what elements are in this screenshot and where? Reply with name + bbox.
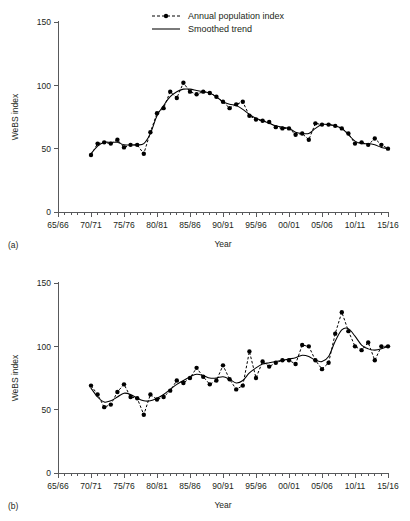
data-point-marker [267, 364, 271, 368]
data-point-marker [227, 106, 231, 110]
data-point-marker [155, 397, 159, 401]
x-tick-label: 75/76 [113, 481, 135, 491]
legend-label-smoothed-trend: Smoothed trend [188, 24, 252, 34]
data-point-marker [221, 100, 225, 104]
data-point-marker [280, 358, 284, 362]
data-point-marker [122, 145, 126, 149]
data-point-marker [102, 405, 106, 409]
data-point-marker [353, 141, 357, 145]
data-point-marker [274, 125, 278, 129]
data-point-marker [254, 117, 258, 121]
data-point-marker [122, 382, 126, 386]
data-point-marker [148, 392, 152, 396]
data-point-marker [161, 395, 165, 399]
data-point-marker [333, 124, 337, 128]
y-tick-label: 100 [37, 342, 51, 352]
data-point-marker [181, 381, 185, 385]
data-point-marker [142, 152, 146, 156]
data-point-marker [227, 377, 231, 381]
data-point-marker [109, 141, 113, 145]
data-point-marker [161, 106, 165, 110]
data-point-marker [359, 348, 363, 352]
panel-letter: (a) [8, 240, 19, 250]
y-tick-label: 50 [42, 144, 52, 154]
x-tick-label: 85/86 [179, 481, 201, 491]
data-point-marker [320, 367, 324, 371]
data-point-marker [168, 89, 172, 93]
data-point-marker [300, 343, 304, 347]
data-point-marker [115, 390, 119, 394]
data-point-marker [128, 395, 132, 399]
data-point-marker [135, 143, 139, 147]
data-point-marker [128, 143, 132, 147]
data-point-marker [287, 126, 291, 130]
data-point-marker [201, 375, 205, 379]
data-point-marker [234, 387, 238, 391]
data-point-marker [89, 153, 93, 157]
x-tick-label: 70/71 [80, 220, 102, 230]
x-axis-title: Year [214, 239, 231, 249]
y-axis-title: WeBS index [10, 354, 20, 401]
data-point-marker [366, 143, 370, 147]
chart-panel-a: 05010015065/6670/7175/7680/8185/8690/919… [0, 0, 410, 260]
data-point-marker [241, 383, 245, 387]
data-point-marker [293, 133, 297, 137]
data-point-marker [307, 344, 311, 348]
data-point-marker [307, 138, 311, 142]
x-tick-label: 05/06 [311, 220, 333, 230]
data-point-marker [379, 344, 383, 348]
data-point-marker [194, 366, 198, 370]
data-point-marker [333, 331, 337, 335]
data-point-marker [346, 329, 350, 333]
data-point-marker [201, 89, 205, 93]
x-tick-label: 10/11 [345, 481, 366, 491]
y-tick-label: 0 [46, 207, 51, 217]
data-point-marker [346, 131, 350, 135]
data-point-marker [313, 358, 317, 362]
y-tick-label: 100 [37, 81, 51, 91]
chart-panel-b: 05010015065/6670/7175/7680/8185/8690/919… [0, 261, 410, 521]
data-point-marker [359, 140, 363, 144]
data-point-marker [175, 378, 179, 382]
data-point-marker [142, 413, 146, 417]
x-tick-label: 15/16 [377, 220, 399, 230]
data-point-marker [340, 310, 344, 314]
legend-marker-icon [164, 14, 168, 18]
data-point-marker [267, 120, 271, 124]
x-tick-label: 00/01 [278, 220, 300, 230]
data-point-marker [214, 95, 218, 99]
data-point-marker [221, 363, 225, 367]
y-tick-label: 150 [37, 17, 51, 27]
data-point-marker [280, 126, 284, 130]
data-point-marker [89, 383, 93, 387]
x-tick-label: 75/76 [113, 220, 135, 230]
data-point-marker [260, 119, 264, 123]
data-point-marker [326, 122, 330, 126]
x-tick-label: 65/66 [47, 220, 69, 230]
panel-letter: (b) [8, 501, 19, 511]
data-point-marker [274, 361, 278, 365]
x-tick-label: 15/16 [377, 481, 399, 491]
x-tick-label: 70/71 [80, 481, 102, 491]
x-tick-label: 90/91 [212, 481, 234, 491]
x-tick-label: 95/96 [245, 481, 267, 491]
y-tick-label: 0 [46, 468, 51, 478]
data-point-marker [241, 100, 245, 104]
data-point-marker [234, 102, 238, 106]
data-point-marker [109, 402, 113, 406]
x-axis-title: Year [214, 500, 231, 510]
legend-label-annual-population-index: Annual population index [188, 11, 285, 21]
y-tick-label: 150 [37, 278, 51, 288]
x-tick-label: 80/81 [146, 481, 168, 491]
data-point-marker [386, 344, 390, 348]
data-point-marker [148, 130, 152, 134]
data-point-marker [320, 122, 324, 126]
plot-area-b: 05010015065/6670/7175/7680/8185/8690/919… [0, 261, 410, 521]
x-tick-label: 95/96 [245, 220, 267, 230]
data-point-marker [366, 340, 370, 344]
y-axis-title: WeBS index [10, 93, 20, 140]
data-point-marker [155, 111, 159, 115]
data-point-marker [188, 376, 192, 380]
data-point-marker [175, 96, 179, 100]
data-point-marker [293, 362, 297, 366]
